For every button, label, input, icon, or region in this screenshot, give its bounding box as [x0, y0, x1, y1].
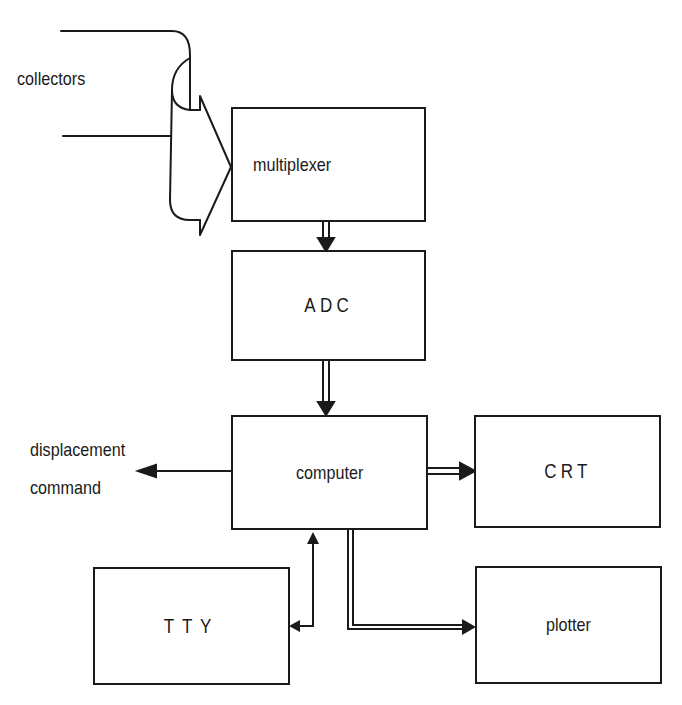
arrowhead-crt	[460, 463, 475, 479]
crt-label: CRT	[544, 460, 591, 483]
arrowhead-computer-from-tty	[307, 532, 319, 544]
arrowhead-displacement	[138, 465, 156, 477]
tty-block: TTY	[93, 567, 290, 685]
tty-label: TTY	[164, 615, 219, 638]
multiplexer-block: multiplexer	[231, 107, 426, 222]
block-diagram: collectors displacement command multiple…	[0, 0, 682, 705]
collectors-bus-arrowhead	[200, 96, 231, 235]
plotter-label: plotter	[546, 614, 591, 636]
adc-label: ADC	[304, 294, 353, 317]
displacement-label-line2: command	[30, 477, 101, 499]
adc-block: ADC	[231, 250, 426, 361]
displacement-label-line1: displacement	[30, 439, 125, 461]
multiplexer-label: multiplexer	[253, 154, 331, 176]
collectors-label: collectors	[17, 68, 85, 90]
collectors-bus-body	[170, 90, 200, 220]
arrowhead-adc-computer	[318, 402, 334, 415]
computer-label: computer	[296, 462, 363, 484]
computer-block: computer	[231, 415, 428, 530]
arrowhead-tty	[289, 620, 300, 632]
collectors-bus-curl	[172, 58, 200, 110]
plotter-block: plotter	[475, 566, 662, 684]
arrowhead-plotter	[462, 619, 476, 635]
crt-block: CRT	[474, 415, 661, 528]
